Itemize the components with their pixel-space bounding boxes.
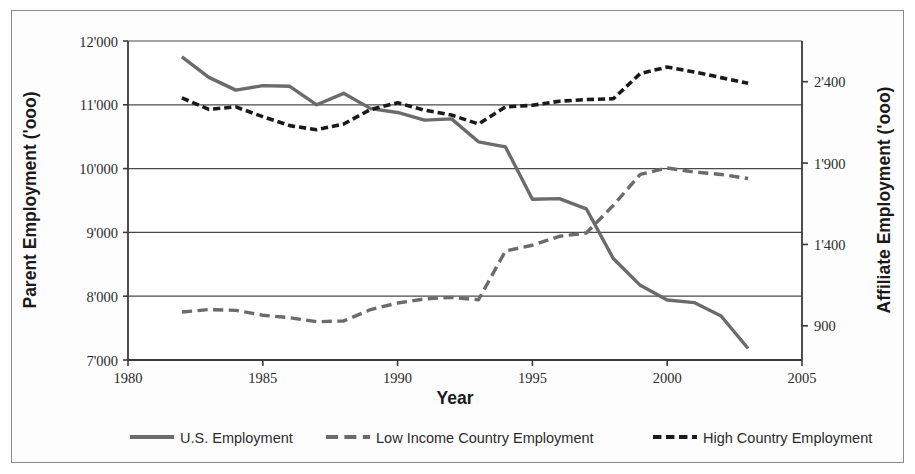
y-left-tick-label: 8'000: [86, 289, 118, 305]
y-left-tick-label: 9'000: [86, 225, 118, 241]
employment-line-chart: 7'0008'0009'00010'00011'00012'000 9001'4…: [0, 0, 915, 474]
y-right-tick-label: 1'400: [814, 237, 846, 253]
x-tick-label: 1995: [518, 370, 547, 386]
y-right-tick-label: 900: [814, 318, 836, 334]
x-tick-label: 2005: [788, 370, 817, 386]
legend-label-3: High Country Employment: [703, 430, 872, 446]
x-tick-label: 1985: [248, 370, 277, 386]
y-left-tick-label: 10'000: [79, 161, 118, 177]
y-axis-left-title: Parent Employment ('ooo): [20, 91, 40, 308]
chart-page: 7'0008'0009'00010'00011'00012'000 9001'4…: [0, 0, 915, 474]
y-axis-right-tick-labels: 9001'4001'9002'400: [814, 74, 846, 334]
legend-label-2: Low Income Country Employment: [376, 430, 594, 446]
y-left-tick-label: 7'000: [86, 353, 118, 369]
x-axis-tick-labels: 198019851990199520002005: [114, 370, 817, 386]
x-tick-label: 2000: [653, 370, 682, 386]
y-left-tick-label: 12'000: [79, 34, 118, 50]
legend-label-1: U.S. Employment: [180, 430, 293, 446]
y-axis-left-tick-labels: 7'0008'0009'00010'00011'00012'000: [79, 34, 118, 369]
y-right-tick-label: 1'900: [814, 156, 846, 172]
y-axis-right-title: Affiliate Employment ('ooo): [874, 87, 894, 314]
y-left-tick-label: 11'000: [80, 97, 118, 113]
x-axis-title: Year: [437, 388, 474, 408]
x-tick-label: 1990: [383, 370, 412, 386]
x-tick-label: 1980: [114, 370, 143, 386]
y-right-tick-label: 2'400: [814, 74, 846, 90]
chart-legend: U.S. EmploymentLow Income Country Employ…: [130, 430, 872, 446]
grid-lines: [128, 41, 802, 360]
